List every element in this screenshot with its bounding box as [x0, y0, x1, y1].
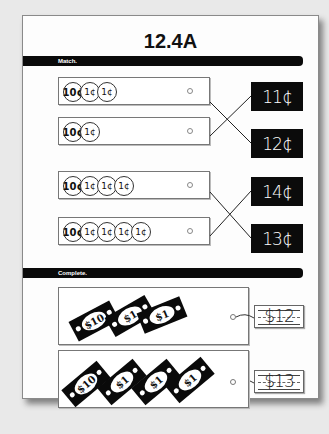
coin-group: 10¢ 1¢ 1¢ 1¢	[63, 176, 131, 196]
penny-coin-icon: 1¢	[114, 176, 134, 196]
coin-row-1: 10¢ 1¢ 1¢	[58, 77, 210, 105]
bill-row-1: $10 $1 $1	[58, 287, 249, 345]
bill-row-2: $10 $1 $1 $1	[58, 350, 249, 408]
penny-coin-icon: 1¢	[131, 222, 151, 242]
answer-hook-dot	[230, 379, 236, 385]
coin-group: 10¢ 1¢ 1¢ 1¢ 1¢	[63, 222, 148, 242]
match-dot[interactable]	[187, 182, 193, 188]
section-bar-match: Match.	[23, 56, 303, 66]
price-tag-2[interactable]: 12¢	[251, 129, 303, 158]
coin-row-3: 10¢ 1¢ 1¢ 1¢	[58, 171, 210, 199]
answer-hook-dot	[230, 314, 236, 320]
match-dot[interactable]	[187, 228, 193, 234]
section-bar-complete: Complete.	[23, 268, 303, 278]
price-tag-4[interactable]: 13¢	[251, 224, 303, 253]
coin-group: 10¢ 1¢ 1¢	[63, 82, 114, 102]
penny-coin-icon: 1¢	[80, 122, 100, 142]
worksheet-page: 12.4A Match. 10¢ 1¢ 1¢ 10¢ 1¢ 10¢ 1¢ 1¢ …	[22, 15, 319, 399]
coin-group: 10¢ 1¢	[63, 122, 97, 142]
coin-row-4: 10¢ 1¢ 1¢ 1¢ 1¢	[58, 217, 210, 245]
page-title: 12.4A	[23, 30, 318, 53]
price-tag-3[interactable]: 14¢	[251, 177, 303, 206]
coin-row-2: 10¢ 1¢	[58, 117, 210, 145]
one-dollar-bill-icon: $1	[165, 357, 214, 403]
answer-value: $13	[255, 371, 303, 391]
answer-box-1[interactable]: $12	[254, 305, 304, 328]
answer-value: $12	[255, 306, 303, 326]
answer-box-2[interactable]: $13	[254, 370, 304, 393]
match-dot[interactable]	[187, 88, 193, 94]
penny-coin-icon: 1¢	[97, 82, 117, 102]
price-tag-1[interactable]: 11¢	[251, 82, 303, 111]
match-dot[interactable]	[187, 128, 193, 134]
